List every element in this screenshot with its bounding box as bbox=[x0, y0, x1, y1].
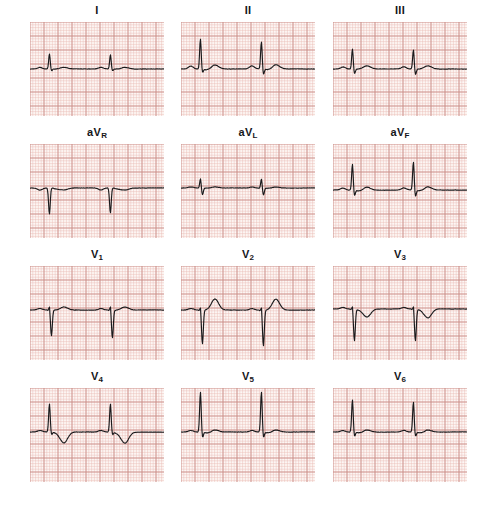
lead-panel-i bbox=[30, 22, 164, 116]
lead-label-v6: V6 bbox=[333, 366, 467, 386]
lead-block-ii: II bbox=[181, 0, 315, 116]
lead-label-base: I bbox=[95, 4, 98, 16]
lead-label-ii: II bbox=[181, 0, 315, 20]
ecg-grid bbox=[333, 266, 467, 360]
ecg-grid bbox=[181, 388, 315, 482]
lead-block-v2: V2 bbox=[181, 244, 315, 360]
lead-panel-avl bbox=[181, 144, 315, 238]
ecg-grid bbox=[30, 144, 164, 238]
ecg-grid bbox=[30, 22, 164, 116]
lead-label-v5: V5 bbox=[181, 366, 315, 386]
ecg-grid bbox=[30, 388, 164, 482]
lead-label-subscript: 1 bbox=[99, 253, 103, 262]
lead-panel-v5 bbox=[181, 388, 315, 482]
lead-block-v1: V1 bbox=[30, 244, 164, 360]
lead-label-base: V bbox=[242, 248, 250, 260]
lead-block-i: I bbox=[30, 0, 164, 116]
lead-label-base: aV bbox=[391, 126, 405, 138]
ecg-grid bbox=[333, 388, 467, 482]
lead-label-base: III bbox=[395, 4, 405, 16]
lead-label-subscript: 3 bbox=[402, 253, 406, 262]
lead-panel-v1 bbox=[30, 266, 164, 360]
lead-label-subscript: L bbox=[253, 131, 258, 140]
lead-label-avf: aVF bbox=[333, 122, 467, 142]
lead-panel-ii bbox=[181, 22, 315, 116]
lead-label-v4: V4 bbox=[30, 366, 164, 386]
lead-label-base: aV bbox=[239, 126, 253, 138]
lead-block-iii: III bbox=[333, 0, 467, 116]
ecg-grid bbox=[181, 266, 315, 360]
ecg-grid bbox=[30, 266, 164, 360]
lead-block-v5: V5 bbox=[181, 366, 315, 482]
lead-panel-avr bbox=[30, 144, 164, 238]
lead-label-base: V bbox=[394, 370, 402, 382]
lead-label-v1: V1 bbox=[30, 244, 164, 264]
lead-panel-v3 bbox=[333, 266, 467, 360]
lead-panel-v4 bbox=[30, 388, 164, 482]
lead-panel-avf bbox=[333, 144, 467, 238]
lead-panel-v2 bbox=[181, 266, 315, 360]
lead-block-avr: aVR bbox=[30, 122, 164, 238]
lead-label-subscript: 2 bbox=[250, 253, 254, 262]
lead-label-base: V bbox=[394, 248, 402, 260]
lead-label-base: V bbox=[91, 248, 99, 260]
lead-label-base: V bbox=[91, 370, 99, 382]
lead-label-iii: III bbox=[333, 0, 467, 20]
ecg-grid bbox=[181, 144, 315, 238]
lead-label-avr: aVR bbox=[30, 122, 164, 142]
lead-block-v3: V3 bbox=[333, 244, 467, 360]
lead-label-base: II bbox=[245, 4, 252, 16]
lead-label-base: aV bbox=[87, 126, 101, 138]
lead-block-v4: V4 bbox=[30, 366, 164, 482]
lead-block-avf: aVF bbox=[333, 122, 467, 238]
lead-label-subscript: 4 bbox=[99, 375, 103, 384]
lead-panel-v6 bbox=[333, 388, 467, 482]
ecg-sheet: IIIIIIaVRaVLaVFV1V2V3V4V5V6 bbox=[0, 0, 495, 508]
lead-label-subscript: 6 bbox=[402, 375, 406, 384]
ecg-grid bbox=[333, 144, 467, 238]
ecg-grid bbox=[333, 22, 467, 116]
lead-block-avl: aVL bbox=[181, 122, 315, 238]
ecg-grid bbox=[181, 22, 315, 116]
lead-label-avl: aVL bbox=[181, 122, 315, 142]
lead-label-i: I bbox=[30, 0, 164, 20]
lead-label-v2: V2 bbox=[181, 244, 315, 264]
lead-label-subscript: F bbox=[405, 131, 410, 140]
lead-label-subscript: R bbox=[101, 131, 107, 140]
lead-block-v6: V6 bbox=[333, 366, 467, 482]
lead-panel-iii bbox=[333, 22, 467, 116]
lead-label-v3: V3 bbox=[333, 244, 467, 264]
lead-label-base: V bbox=[242, 370, 250, 382]
lead-label-subscript: 5 bbox=[250, 375, 254, 384]
